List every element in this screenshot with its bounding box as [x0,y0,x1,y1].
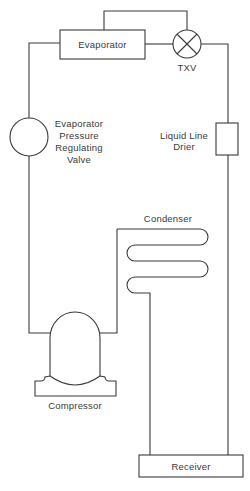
epr-label-line-2: Pressure [59,130,99,141]
compressor: Compressor [35,312,116,411]
discharge-line [100,229,117,333]
evaporator-label: Evaporator [78,39,126,50]
condenser-label: Condenser [144,213,192,224]
receiver: Receiver [139,455,243,477]
epr-valve: Evaporator Pressure Regulating Valve [10,118,103,165]
diagram-canvas: Evaporator TXV Evaporator Pressure Regul… [0,0,250,491]
txv: TXV [173,30,201,73]
compressor-base [35,376,116,396]
suction-line-top [29,43,60,118]
epr-label-line-4: Valve [67,154,91,165]
evaporator: Evaporator [60,30,145,59]
txv-external-equalizer-line [104,11,187,30]
txv-to-liquid-line-pipe [201,44,228,123]
epr-label-line-1: Evaporator [55,118,103,129]
epr-valve-icon [10,118,48,156]
epr-label-line-3: Regulating [55,142,102,153]
receiver-label: Receiver [171,461,210,472]
condenser-coil [117,229,208,455]
liquid-line-drier: Liquid Line Drier [160,123,238,155]
drier-label-line-1: Liquid Line [160,130,208,141]
txv-label: TXV [177,62,197,73]
drier-label-line-2: Drier [173,141,195,152]
compressor-label: Compressor [48,400,102,411]
refrigeration-diagram: Evaporator TXV Evaporator Pressure Regul… [0,0,250,491]
compressor-dome [50,312,100,378]
drier-box [216,123,238,155]
suction-line-bottom [29,156,50,333]
